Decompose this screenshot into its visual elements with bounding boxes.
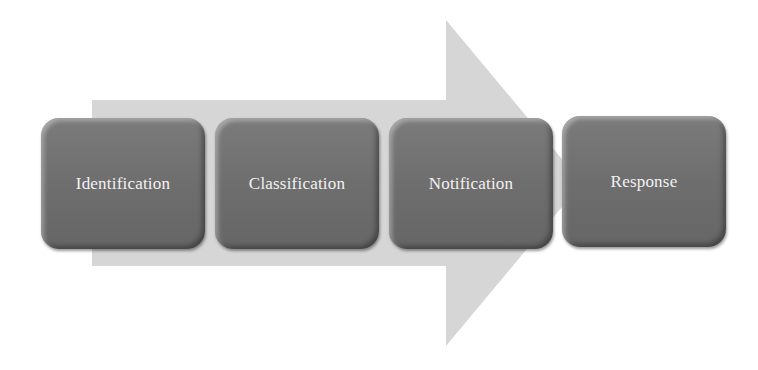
step-label: Identification (76, 174, 170, 194)
step-label: Response (611, 172, 678, 192)
step-response: Response (562, 116, 726, 247)
step-label: Notification (429, 174, 514, 194)
step-classification: Classification (215, 118, 379, 249)
step-notification: Notification (389, 118, 553, 249)
step-identification: Identification (41, 118, 205, 249)
step-label: Classification (249, 174, 345, 194)
